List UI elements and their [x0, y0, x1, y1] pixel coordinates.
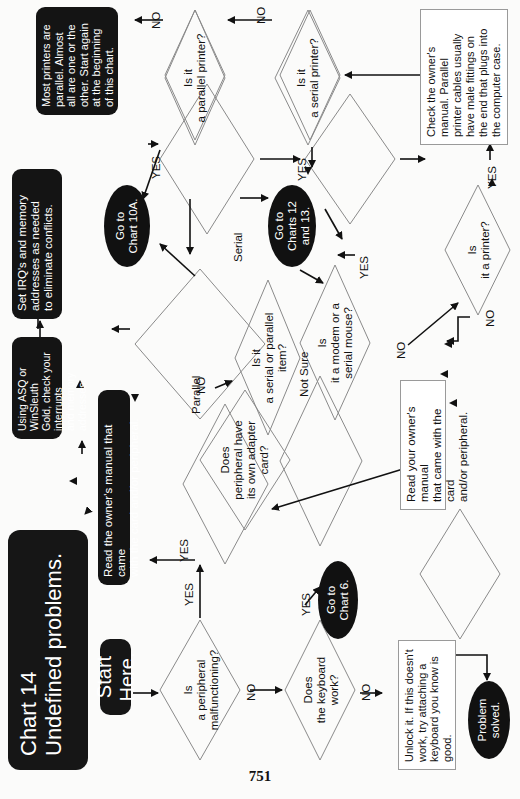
read-your-owners-manual-box: Read your owner's manual that came with … [400, 380, 446, 510]
text-line: item? [276, 344, 289, 372]
text-line: Go to [114, 212, 127, 240]
text-line: Is [316, 339, 329, 348]
set-irq-box: Set IRQ's and memory addresses as needed… [12, 169, 62, 319]
text-line: printer cables usually [451, 34, 464, 137]
edge-label-yes: YES [150, 156, 162, 179]
text-line: a serial printer? [308, 38, 321, 117]
decision-keyboard-works: Does the keyboard work? [300, 630, 342, 750]
text-line: all are one or the [65, 24, 78, 107]
edge-label-yes: YES [486, 166, 498, 189]
text-line: serial mouse? [342, 307, 355, 379]
decision-peripheral-malfunctioning: Is a peripheral malfunctioning? [180, 630, 222, 750]
text-line: Go to [273, 212, 286, 240]
text-line: parallel. Almost [53, 32, 66, 107]
edge-label-yes: YES [178, 539, 190, 562]
text-line: a serial or parallel [263, 313, 276, 404]
edge-label-no: NO [360, 684, 372, 701]
text-line: Problem [476, 699, 489, 742]
text-line: Is it [295, 69, 308, 87]
text-line: card? [258, 446, 271, 475]
decision-serial-or-parallel: Is it a serial or parallel item? [248, 298, 290, 418]
text-line: Does [302, 677, 315, 704]
chart-title-block: Chart 14 Undefined problems. [8, 530, 88, 770]
text-line: Is [182, 686, 195, 695]
text-line: work, try attaching a [416, 664, 429, 762]
text-line: Set IRQ's and memory [16, 195, 29, 311]
decision-serial-printer: Is it a serial printer? [293, 23, 323, 133]
decision-adapter-card: Does peripheral have its own adapter car… [218, 405, 272, 515]
text-line: Is it [182, 69, 195, 87]
text-line: peripheral have [232, 420, 245, 499]
text-line: of this chart. [103, 47, 116, 107]
decision-is-printer: Is it a printer? [464, 200, 494, 300]
chart-title: Undefined problems. [41, 553, 66, 756]
text-line: Does [219, 447, 232, 474]
text-line: Go to [325, 586, 338, 614]
text-line: Chart 10A. [127, 199, 140, 254]
text-line: and memory addresses. [64, 345, 88, 431]
text-line: Check the owner's [425, 47, 438, 137]
text-line: Is [466, 246, 479, 255]
text-line: Read the owner's manual that came [102, 398, 128, 577]
terminal-go-to-chart-6: Go to Chart 6. [318, 561, 358, 639]
text-line: Charts 12 [286, 201, 299, 251]
text-line: it a modem or a [329, 303, 342, 383]
text-line: the end that plugs into [477, 29, 490, 137]
edge-label-yes: YES [296, 158, 308, 181]
text-line: and/or peripheral. [457, 412, 470, 502]
using-asq-box: Using ASQ or WinSleuth Gold, check your … [12, 337, 62, 439]
page-number: 751 [0, 768, 520, 785]
text-line: Unlock it. If this doesn't [403, 649, 416, 762]
edge-label-yes: YES [183, 583, 195, 606]
text-line: that came with the card [431, 388, 457, 502]
read-owners-manual-box: Read the owner's manual that came with t… [98, 390, 130, 585]
text-line: Most printers are [40, 24, 53, 107]
text-line: manual. Parallel [438, 58, 451, 137]
diamond-printer [420, 509, 500, 639]
text-line: solved. [489, 702, 502, 738]
edge-label-no: NO [395, 342, 407, 359]
text-line: Gold, check your interrupts [40, 345, 64, 431]
text-line: it a printer? [479, 221, 492, 279]
text-line: and 13. [299, 207, 312, 245]
terminal-go-to-charts-12-13: Go to Charts 12 and 13. [268, 185, 316, 267]
terminal-problem-solved: Problem solved. [468, 681, 510, 759]
text-line: Is it [250, 349, 263, 367]
edge-label-yes: YES [358, 256, 370, 279]
edge-label-no: NO [150, 12, 162, 29]
edge-label-serial: Serial [232, 233, 244, 262]
text-line: Read your owner's manual [405, 388, 431, 502]
text-line: a parallel printer? [195, 34, 208, 123]
text-line: with the card and/or peripheral. [128, 418, 141, 577]
edge-label-parallel: Parallel [190, 376, 202, 414]
text-line: addresses as needed [29, 201, 42, 311]
unlock-keyboard-box: Unlock it. If this doesn't work, try att… [398, 640, 456, 770]
chart-number: Chart 14 [16, 672, 41, 756]
text-line: other. Start again [78, 23, 91, 107]
text-line: the keyboard [315, 657, 328, 724]
text-line: its own adapter [245, 421, 258, 499]
text-line: Chart 6. [338, 580, 351, 621]
text-line: good. [441, 734, 454, 762]
text-line: malfunctioning? [208, 650, 221, 731]
text-line: keyboard you know is [428, 656, 441, 762]
text-line: at the beginning [90, 29, 103, 107]
edge-label-no: NO [255, 7, 267, 24]
edge-label-yes: YES [300, 593, 312, 616]
most-printers-parallel-box: Most printers are parallel. Almost all a… [36, 7, 118, 115]
start-here-label: Start Here. [93, 651, 139, 703]
edge-label-not-sure: Not Sure [298, 352, 310, 397]
rotated-flowchart-canvas: Chart 14 Undefined problems. Start Here. [0, 0, 520, 799]
text-line: Using ASQ or WinSleuth [16, 345, 40, 431]
text-line: have male fittings on [464, 36, 477, 137]
edge-label-no: NO [484, 310, 496, 327]
text-line: the computer case. [490, 43, 503, 137]
decision-modem-or-mouse: Is it a modem or a serial mouse? [314, 283, 356, 403]
text-line: work? [328, 675, 341, 706]
flowchart-page: Chart 14 Undefined problems. Start Here. [0, 0, 520, 799]
text-line: a peripheral [195, 660, 208, 721]
start-here-box: Start Here. [100, 639, 131, 715]
decision-parallel-printer: Is it a parallel printer? [180, 23, 210, 133]
terminal-go-to-chart-10a: Go to Chart 10A. [104, 185, 150, 267]
check-owners-manual-box: Check the owner's manual. Parallel print… [420, 9, 508, 145]
